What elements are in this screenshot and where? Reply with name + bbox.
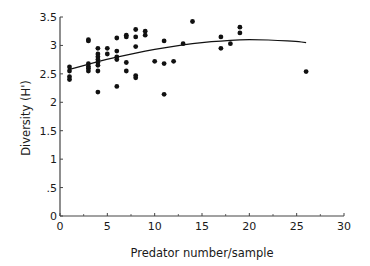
y-tick-label: 2 [50,96,57,109]
data-point [133,35,138,40]
data-point [96,63,101,68]
data-point [171,59,176,64]
data-point [86,69,91,74]
y-axis-title: Diversity (H') [19,80,33,156]
data-point [162,39,167,44]
data-point [67,77,72,82]
x-axis-title: Predator number/sample [130,246,273,260]
data-point [124,35,129,40]
x-tick-label: 30 [337,220,351,233]
data-point [133,44,138,49]
data-point [114,57,119,62]
data-point [238,31,243,36]
data-point [219,46,224,51]
x-tick-label: 20 [242,220,256,233]
data-point [124,60,129,65]
y-tick-label: 0 [50,210,57,223]
data-point [96,69,101,74]
data-point [67,69,72,74]
x-tick-label: 25 [290,220,304,233]
data-point [96,90,101,95]
x-tick-label: 10 [148,220,162,233]
data-point [114,36,119,41]
data-point [190,19,195,24]
data-point [124,69,129,74]
data-point [219,35,224,40]
data-points [67,19,308,97]
data-point [105,46,110,51]
data-point [96,46,101,51]
data-point [228,41,233,46]
data-point [105,52,110,57]
data-point [181,41,186,46]
data-point [162,92,167,97]
x-tick-label: 5 [104,220,111,233]
y-tick-label: 1.5 [40,125,58,138]
y-tick-label: 1 [50,153,57,166]
y-tick-label: 2.5 [40,68,58,81]
data-point [114,84,119,89]
x-tick-label: 0 [57,220,64,233]
data-point [152,59,157,64]
y-tick-label: .5 [47,182,58,195]
data-point [114,49,119,54]
x-tick-label: 15 [195,220,209,233]
data-point [238,25,243,30]
axes: 0510152025300.511.522.533.5 [40,11,352,233]
data-point [133,27,138,32]
data-point [143,33,148,38]
y-tick-label: 3 [50,39,57,52]
data-point [162,61,167,66]
y-tick-label: 3.5 [40,11,58,24]
data-point [304,69,309,74]
scatter-chart: 0510152025300.511.522.533.5 Predator num… [0,0,370,266]
data-point [86,39,91,44]
data-point [133,75,138,80]
